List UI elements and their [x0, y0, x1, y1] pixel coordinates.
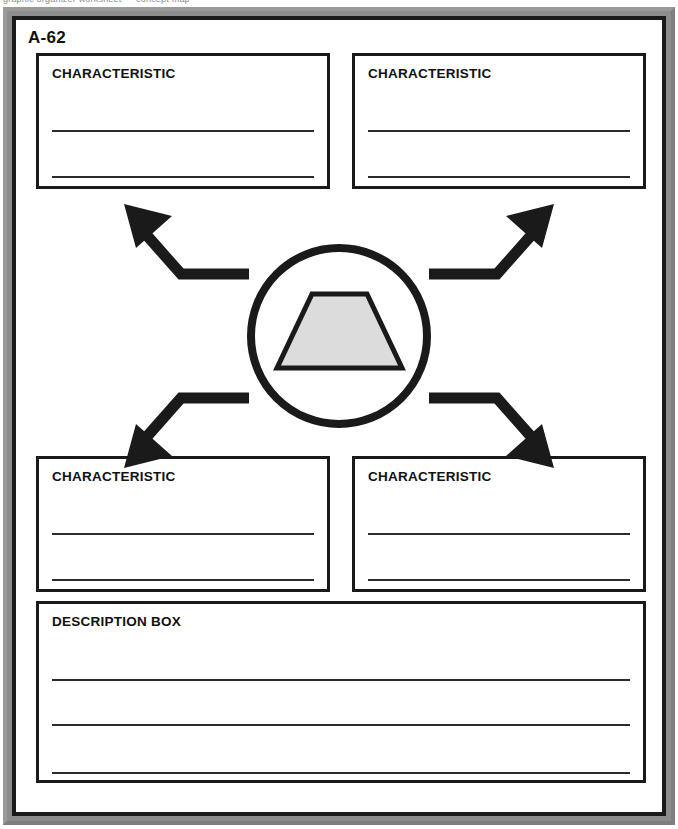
scan-artifact-text: graphic organizer worksheet — concept ma…: [0, 0, 678, 7]
characteristic-box-top-left[interactable]: CHARACTERISTIC: [36, 53, 330, 189]
write-line[interactable]: [368, 533, 630, 535]
characteristic-box-bottom-right-title: CHARACTERISTIC: [368, 469, 492, 484]
characteristic-box-top-right[interactable]: CHARACTERISTIC: [352, 53, 646, 189]
write-line[interactable]: [52, 679, 630, 681]
characteristic-box-top-right-title: CHARACTERISTIC: [368, 66, 492, 81]
write-line[interactable]: [368, 130, 630, 132]
characteristic-box-bottom-left-title: CHARACTERISTIC: [52, 469, 176, 484]
write-line[interactable]: [52, 579, 314, 581]
write-line[interactable]: [368, 176, 630, 178]
write-line[interactable]: [52, 724, 630, 726]
write-line[interactable]: [52, 533, 314, 535]
description-box[interactable]: DESCRIPTION BOX: [36, 601, 646, 783]
worksheet-code-label: A-62: [28, 28, 66, 48]
write-line[interactable]: [52, 130, 314, 132]
characteristic-box-top-left-title: CHARACTERISTIC: [52, 66, 176, 81]
write-line[interactable]: [52, 772, 630, 774]
description-box-title: DESCRIPTION BOX: [52, 614, 181, 629]
write-line[interactable]: [52, 176, 314, 178]
worksheet-page: graphic organizer worksheet — concept ma…: [0, 0, 678, 829]
write-line[interactable]: [368, 579, 630, 581]
characteristic-box-bottom-left[interactable]: CHARACTERISTIC: [36, 456, 330, 592]
characteristic-box-bottom-right[interactable]: CHARACTERISTIC: [352, 456, 646, 592]
